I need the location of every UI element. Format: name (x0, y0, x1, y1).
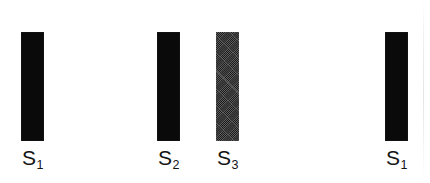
stimulus-bar-4-label: S1 (385, 147, 408, 168)
stimulus-bar-1-label-main: S (22, 146, 36, 169)
stimulus-bar-2-label-main: S (158, 146, 172, 169)
stimulus-bar-4-label-subscript: 1 (401, 158, 408, 172)
stimulus-bar-2 (157, 32, 180, 141)
stimulus-bar-1-label-subscript: 1 (37, 158, 44, 172)
stimulus-bar-2-label: S2 (157, 147, 180, 168)
stimulus-bar-4 (385, 32, 408, 141)
stimulus-bar-4-label-main: S (386, 146, 400, 169)
stimulus-bar-3-label: S3 (216, 147, 239, 168)
stimulus-bar-3-label-main: S (217, 146, 231, 169)
figure-canvas: S1 S2 S3 S1 (0, 0, 430, 183)
stimulus-bar-1 (21, 32, 44, 141)
stimulus-bar-2-label-subscript: 2 (173, 158, 180, 172)
stimulus-bar-1-label: S1 (21, 147, 44, 168)
scan-edge-artifact (423, 0, 424, 183)
stimulus-bar-3-label-subscript: 3 (232, 158, 239, 172)
stimulus-bar-3 (216, 32, 239, 141)
